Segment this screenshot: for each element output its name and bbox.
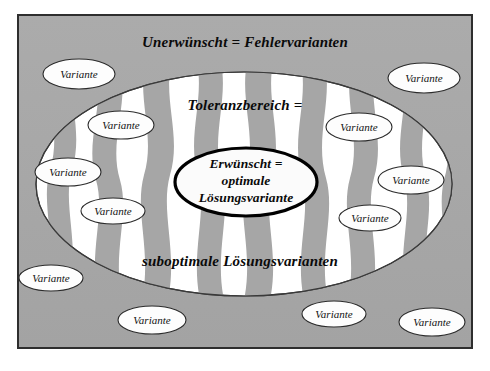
diagram-root: Unerwünscht = Fehlervarianten Toleranzbe… [0,0,490,371]
variant-bubble[interactable]: Variante [339,205,401,231]
variant-bubble[interactable]: Variante [35,158,101,186]
variant-label: Variante [133,314,170,326]
variant-label: Variante [413,316,450,328]
variant-bubble[interactable]: Variante [118,306,186,334]
variant-label: Variante [49,166,86,178]
variant-label: Variante [392,174,429,186]
variant-bubble[interactable]: Variante [326,113,392,141]
variant-bubble[interactable]: Variante [378,166,444,194]
variant-bubble[interactable]: Variante [88,111,154,139]
variant-bubble[interactable]: Variante [43,59,115,89]
variant-bubble[interactable]: Variante [399,308,465,336]
variant-label: Variante [102,119,139,131]
variant-bubble[interactable]: Variante [302,301,366,327]
tolerance-zone-label-bottom: suboptimale Lösungsvarianten [141,253,338,269]
core-label-line1: Erwünscht = [209,156,283,171]
variant-zones-diagram: Unerwünscht = Fehlervarianten Toleranzbe… [0,0,490,371]
variant-label: Variante [405,72,442,84]
variant-bubble[interactable]: Variante [388,63,460,93]
variant-label: Variante [94,205,131,217]
variant-bubble[interactable]: Variante [81,198,145,224]
core-label-line2: optimale [222,173,271,188]
variant-label: Variante [32,272,69,284]
variant-label: Variante [315,308,352,320]
variant-bubble[interactable]: Variante [19,265,83,291]
tolerance-zone-label-top: Toleranzbereich = [187,97,302,113]
variant-label: Variante [60,68,97,80]
variant-label: Variante [351,212,388,224]
outer-zone-label: Unerwünscht = Fehlervarianten [142,34,348,50]
core-label-line3: Lösungsvariante [198,190,294,205]
variant-label: Variante [340,121,377,133]
